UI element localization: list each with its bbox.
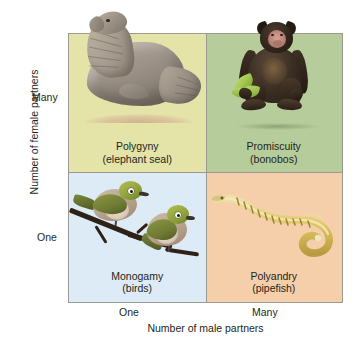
quadrant-promiscuity: Promiscuity (bonobos) [206,34,343,172]
grid-divider-vertical [206,34,207,302]
quadrant-grid: Polygyny (elephant seal) [68,33,343,303]
y-axis-title: Number of female partners [28,22,40,242]
quadrant-monogamy-caption: Monogamy (birds) [69,270,206,295]
quadrant-promiscuity-caption: Promiscuity (bonobos) [206,140,343,165]
y-tick-one: One [37,231,57,243]
quadrant-polygyny-caption: Polygyny (elephant seal) [69,140,206,165]
birds-icon [69,175,207,283]
mating-systems-figure: Polygyny (elephant seal) [0,0,363,342]
quadrant-polygyny-name: Polygyny [116,140,159,152]
elephant-seal-icon [75,12,200,132]
quadrant-polyandry-name: Polyandry [250,270,297,282]
quadrant-polyandry-caption: Polyandry (pipefish) [206,270,343,295]
quadrant-monogamy-example: (birds) [69,282,206,295]
grid-divider-horizontal [69,172,342,173]
quadrant-polyandry: Polyandry (pipefish) [206,172,343,302]
quadrant-polygyny-example: (elephant seal) [69,153,206,166]
quadrant-promiscuity-name: Promiscuity [247,140,301,152]
quadrant-polygyny: Polygyny (elephant seal) [69,34,206,172]
x-tick-one: One [119,306,139,318]
quadrant-polyandry-example: (pipefish) [206,282,343,295]
quadrant-promiscuity-example: (bonobos) [206,153,343,166]
quadrant-monogamy-name: Monogamy [111,270,163,282]
x-axis-title: Number of male partners [68,322,343,334]
x-tick-many: Many [252,306,278,318]
bonobo-icon [220,14,338,134]
pipefish-icon [210,176,342,264]
y-tick-many: Many [32,91,58,103]
quadrant-monogamy: Monogamy (birds) [69,172,206,302]
